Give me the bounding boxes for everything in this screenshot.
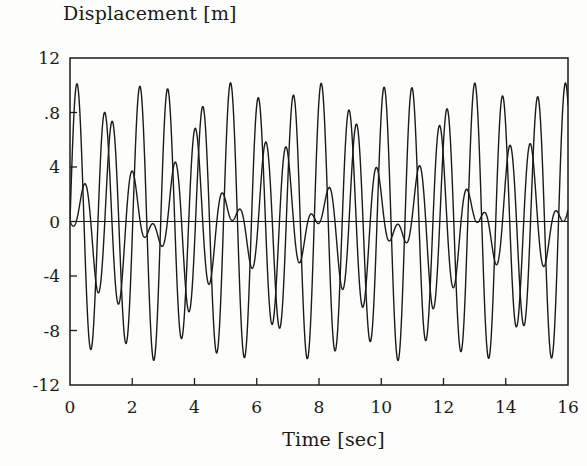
figure-canvas: Displacement [m] 12.840-4-8-120246810121…: [0, 0, 587, 466]
x-tick-label: 0: [65, 397, 76, 417]
x-tick-label: 8: [314, 397, 325, 417]
y-tick-label: -4: [43, 266, 60, 286]
x-tick-label: 2: [127, 397, 138, 417]
y-tick-label: 4: [49, 157, 60, 177]
x-tick-label: 12: [433, 397, 455, 417]
y-tick-label: 0: [49, 212, 60, 232]
y-tick-label: .8: [44, 103, 60, 123]
x-tick-label: 10: [370, 397, 392, 417]
y-tick-label: 12: [38, 48, 60, 68]
x-axis-title: Time [sec]: [0, 428, 587, 450]
x-tick-label: 6: [251, 397, 262, 417]
x-axis-title-text: Time [sec]: [282, 428, 385, 450]
y-tick-label: -12: [33, 375, 60, 395]
x-tick-label: 16: [557, 397, 579, 417]
x-tick-label: 14: [495, 397, 517, 417]
x-tick-label: 4: [189, 397, 200, 417]
y-tick-label: -8: [43, 321, 60, 341]
